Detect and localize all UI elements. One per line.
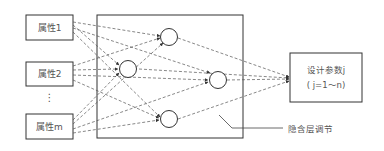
input-hidden-connections	[73, 22, 210, 133]
hidden-node-4	[161, 111, 178, 128]
input-label-2: 属性2	[26, 67, 73, 80]
hidden-layer-callout-line	[219, 115, 283, 128]
hidden-node-2	[120, 61, 137, 78]
hidden-layer-label: 隐含层调节	[288, 122, 333, 134]
hidden-node-3	[210, 72, 227, 89]
input-label-1: 属性1	[26, 21, 73, 34]
hidden-node-1	[161, 29, 178, 46]
output-label-line2: ( j=1～n)	[290, 78, 362, 90]
ellipsis-vertical: ⋮	[26, 92, 73, 103]
input-label-m: 属性m	[26, 120, 73, 133]
output-label-line1: 设计参数j	[290, 63, 362, 75]
